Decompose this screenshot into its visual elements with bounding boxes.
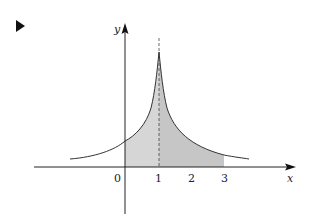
shaded-region-right [159, 52, 224, 167]
y-axis-label: y [113, 23, 121, 36]
origin-label: 0 [114, 172, 121, 185]
shaded-region-left [125, 52, 159, 167]
x-tick-2: 2 [188, 172, 195, 185]
x-tick-1: 1 [155, 172, 162, 185]
x-tick-3: 3 [221, 172, 228, 185]
x-axis-label: x [287, 172, 294, 185]
function-graph: y x 0 1 2 3 [0, 0, 312, 222]
